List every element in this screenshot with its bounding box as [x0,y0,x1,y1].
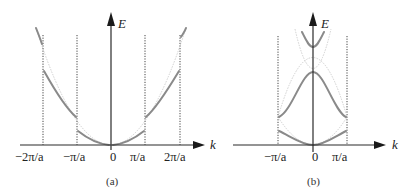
x-axis-arrow-b [374,141,386,149]
tick-label-minus-2pi-a: −2π/a [15,150,44,164]
band-1-right-a [113,131,144,145]
band-3-right-a [181,28,186,37]
y-axis-label-a: E [117,16,126,31]
y-axis-arrow-a [107,12,115,26]
caption-b: (b) [307,175,320,188]
tick-label-minus-pi-a: −π/a [63,150,86,164]
tick-label-pi-b: π/a [332,150,348,164]
band-2-right-a [146,71,179,117]
band-3-left-a [36,28,42,44]
caption-a: (a) [106,175,119,188]
band-structure-diagram: E k −2π/a −π/a 0 π/a 2π/a (a) E k −π/a 0 [0,0,416,196]
y-axis-arrow-b [309,12,317,26]
y-axis-label-b: E [320,16,329,31]
x-axis-arrow-a [193,141,205,149]
tick-label-zero-a: 0 [110,150,116,164]
panel-b: E k −π/a 0 π/a (b) [233,12,398,188]
tick-label-minus-pi-b: −π/a [264,150,287,164]
tick-label-zero-b: 0 [312,150,318,164]
tick-label-pi-a: π/a [130,150,146,164]
x-axis-label-b: k [392,137,398,152]
band-1-left-a [78,131,109,145]
panel-a: E k −2π/a −π/a 0 π/a 2π/a (a) [15,12,216,188]
x-axis-label-a: k [210,137,216,152]
band-2-left-a [44,71,76,117]
tick-label-2pi-a: 2π/a [164,150,186,164]
